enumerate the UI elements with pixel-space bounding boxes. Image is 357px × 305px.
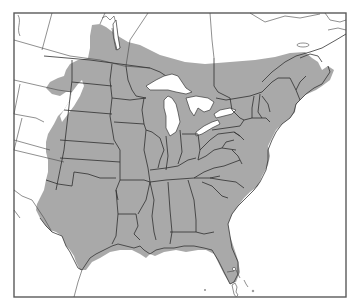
lake-okeechobee <box>232 267 235 270</box>
range-map <box>0 0 357 305</box>
anticosti-island <box>297 43 309 47</box>
map-canvas <box>0 0 357 305</box>
